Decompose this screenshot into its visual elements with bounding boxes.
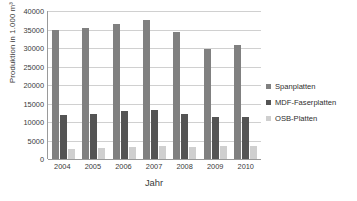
bar-group — [170, 11, 200, 159]
x-axis-tick-label: 2005 — [78, 162, 109, 171]
x-axis-tick-label: 2006 — [108, 162, 139, 171]
legend: SpanplattenMDF-FaserplattenOSB-Platten — [266, 82, 356, 130]
bar — [159, 146, 166, 160]
bar-group — [139, 11, 169, 159]
bar — [151, 110, 158, 159]
legend-item[interactable]: MDF-Faserplatten — [266, 98, 356, 107]
bar — [220, 146, 227, 159]
bar-group — [78, 11, 108, 159]
y-axis-tick-label: 20000 — [23, 81, 44, 90]
y-axis-tick-label: 5000 — [28, 136, 44, 145]
legend-swatch-icon — [266, 116, 271, 121]
gridline — [48, 159, 261, 160]
bar-group — [48, 11, 78, 159]
x-axis-tick-label: 2009 — [200, 162, 231, 171]
y-axis-tick-label: 15000 — [23, 99, 44, 108]
x-axis-tick-label: 2008 — [169, 162, 200, 171]
bar — [234, 45, 241, 159]
y-axis-tick-label: 25000 — [23, 62, 44, 71]
y-axis-tick-label: 35000 — [23, 25, 44, 34]
legend-item-label: MDF-Faserplatten — [275, 98, 336, 107]
bar — [173, 32, 180, 159]
bar — [68, 149, 75, 159]
y-axis-tick-label: 0 — [40, 155, 44, 164]
bar-group — [200, 11, 230, 159]
bar — [82, 28, 89, 159]
x-axis-tick-labels: 2004200520062007200820092010 — [47, 162, 261, 171]
x-axis-tick-label: 2010 — [230, 162, 261, 171]
bar — [113, 24, 120, 159]
legend-swatch-icon — [266, 100, 271, 105]
y-axis-tick-labels: 4000035000300002500020000150001000050000 — [14, 11, 44, 159]
bar — [250, 146, 257, 159]
plot-area — [47, 11, 261, 159]
bar — [189, 147, 196, 159]
bar — [121, 111, 128, 159]
bar — [60, 115, 67, 159]
y-axis-tick-label: 30000 — [23, 44, 44, 53]
bar-group — [231, 11, 261, 159]
y-axis-tick-label: 40000 — [23, 7, 44, 16]
y-axis-tick-label: 10000 — [23, 118, 44, 127]
bar — [212, 117, 219, 159]
legend-item[interactable]: Spanplatten — [266, 82, 356, 91]
bar — [181, 114, 188, 159]
bar — [143, 20, 150, 159]
bar — [98, 148, 105, 159]
bar — [52, 30, 59, 159]
bars-layer — [48, 11, 261, 159]
legend-item-label: OSB-Platten — [275, 114, 317, 123]
bar — [204, 49, 211, 159]
bar — [90, 114, 97, 159]
x-axis-tick-label: 2004 — [47, 162, 78, 171]
bar-chart: Produktion in 1.000 m³ 40000350003000025… — [0, 0, 357, 201]
x-axis-tick-label: 2007 — [139, 162, 170, 171]
legend-swatch-icon — [266, 84, 271, 89]
legend-item[interactable]: OSB-Platten — [266, 114, 356, 123]
x-axis-title: Jahr — [47, 177, 261, 188]
bar-group — [109, 11, 139, 159]
bar — [129, 147, 136, 159]
bar — [242, 117, 249, 159]
legend-item-label: Spanplatten — [275, 82, 316, 91]
